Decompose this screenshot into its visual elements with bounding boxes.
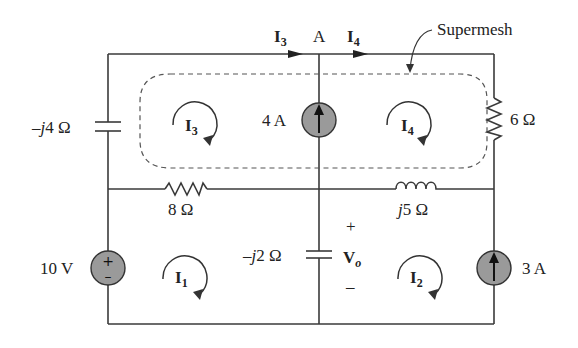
resistor-6 [487,98,501,140]
vo-label: Vo [343,248,361,270]
arrow-i4-icon [353,50,368,58]
mesh-i3-label: I3 [185,116,198,138]
mesh-i2-label: I2 [410,268,423,290]
cap-mid-label: –j2 Ω [242,246,282,265]
vo-plus: + [346,217,356,236]
capacitor-mid [306,251,332,258]
mesh-i4-label: I4 [401,116,414,138]
ind-j5-label: j5 Ω [396,200,428,219]
res-6-label: 6 Ω [510,110,535,129]
capacitor-left [95,122,121,131]
arrow-i3-icon [288,50,303,58]
res-8-label: 8 Ω [168,200,193,219]
current-source-3a [477,251,511,285]
label-i4-branch: I4 [347,27,360,49]
inductor-j5 [396,182,438,189]
supermesh-label: Supermesh [437,20,513,39]
circuit-diagram: I3 A I4 Supermesh –j4 Ω 6 Ω 4 A I3 I4 8 … [0,0,578,348]
vsrc-minus: – [105,268,112,284]
resistor-8 [165,183,207,195]
node-a-label: A [313,27,326,46]
label-i3-branch: I3 [274,27,287,49]
cap-left-label: –j4 Ω [31,118,71,137]
mesh-i1-label: I1 [175,268,188,290]
vo-minus: – [345,277,355,296]
vsrc-plus: + [102,253,114,269]
vsrc-10-label: 10 V [40,259,74,278]
cur-src-4-label: 4 A [262,111,287,130]
current-source-4a [302,103,336,137]
cur-src-3-label: 3 A [522,259,547,278]
